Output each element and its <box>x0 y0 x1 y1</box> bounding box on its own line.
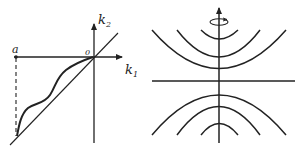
wavy-curve <box>17 57 93 136</box>
diagram-canvas: a 0 k2 k1 <box>0 0 301 151</box>
origin-label: 0 <box>85 48 90 57</box>
k1-label: k1 <box>125 62 138 79</box>
right-panel <box>152 8 295 143</box>
k2-label: k2 <box>98 12 111 29</box>
point-a-label: a <box>12 43 19 56</box>
left-panel: a 0 k2 k1 <box>10 12 138 145</box>
diagonal-line <box>10 33 118 145</box>
